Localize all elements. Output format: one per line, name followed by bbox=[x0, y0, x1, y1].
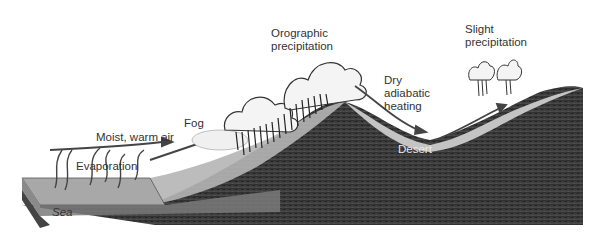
label-moist-warm-air: Moist, warm air bbox=[96, 131, 174, 144]
fog-cloud bbox=[192, 130, 248, 150]
label-sea: Sea bbox=[52, 206, 72, 219]
label-dry-adiabatic-heating: Dry adiabatic heating bbox=[384, 74, 430, 113]
label-orographic-precipitation: Orographic precipitation bbox=[271, 27, 333, 53]
slight-precipitation-clouds bbox=[469, 60, 522, 80]
label-evaporation: Evaporation bbox=[76, 160, 137, 173]
label-fog: Fog bbox=[184, 117, 204, 130]
label-desert: Desert bbox=[398, 143, 432, 156]
slight-rain-streaks bbox=[478, 80, 511, 96]
label-slight-precipitation: Slight precipitation bbox=[465, 23, 527, 49]
sea-top bbox=[22, 178, 165, 205]
